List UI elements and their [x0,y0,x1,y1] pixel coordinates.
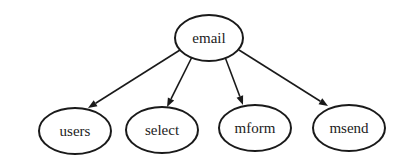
edge-email-to-msend [239,50,328,106]
edge-line [171,57,192,99]
edge-line [96,50,180,103]
node-select[interactable]: select [126,107,198,153]
node-label: mform [235,120,276,136]
edge-email-to-mform [225,57,243,105]
node-label: msend [329,120,369,136]
arrowhead-icon [88,100,97,108]
node-msend[interactable]: msend [313,105,385,151]
nodes: emailusersselectmformmsend [39,15,385,154]
tree-diagram: emailusersselectmformmsend [0,0,414,167]
edge-line [225,57,240,97]
edge-email-to-select [167,57,192,107]
edge-line [239,50,320,101]
node-mform[interactable]: mform [219,105,291,151]
node-email[interactable]: email [175,15,243,61]
arrowhead-icon [237,95,244,105]
arrowhead-icon [167,97,174,107]
node-label: email [192,30,225,46]
node-label: users [60,123,91,139]
node-users[interactable]: users [39,108,111,154]
arrowhead-icon [319,98,328,106]
edge-email-to-users [88,50,180,108]
node-label: select [145,122,180,138]
